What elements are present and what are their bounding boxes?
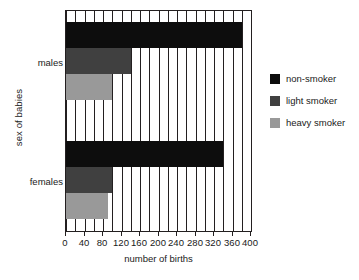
legend-item-light-smoker: light smoker	[270, 95, 359, 106]
legend-item-non-smoker: non-smoker	[270, 73, 359, 84]
x-tick	[195, 232, 196, 236]
legend-swatch-icon	[270, 118, 280, 128]
legend-swatch-icon	[270, 74, 280, 84]
bar-males-light-smoker	[66, 48, 131, 74]
bar-males-heavy-smoker	[66, 74, 112, 100]
legend: non-smokerlight smokerheavy smoker	[270, 73, 359, 139]
legend-label: non-smoker	[286, 73, 336, 84]
bar-females-heavy-smoker	[66, 193, 108, 219]
bar-chart-figure: sex of babies males females 040801201602…	[0, 0, 359, 280]
x-axis-tick-labels: 04080120160200240280320360400	[0, 237, 359, 251]
x-tick	[250, 232, 251, 236]
x-tick	[102, 232, 103, 236]
x-tick	[65, 232, 66, 236]
y-axis-label-females: females	[3, 176, 63, 187]
bar-females-light-smoker	[66, 167, 112, 193]
plot-area	[65, 10, 252, 232]
gridline	[242, 11, 243, 231]
x-tick	[213, 232, 214, 236]
x-tick	[121, 232, 122, 236]
x-tick	[176, 232, 177, 236]
x-tick	[232, 232, 233, 236]
legend-item-heavy-smoker: heavy smoker	[270, 117, 359, 128]
gridline	[251, 11, 252, 231]
legend-label: heavy smoker	[286, 117, 345, 128]
legend-label: light smoker	[286, 95, 337, 106]
x-tick-label: 400	[235, 237, 265, 248]
y-axis-label-males: males	[3, 57, 63, 68]
x-axis-title: number of births	[65, 253, 252, 264]
x-tick	[84, 232, 85, 236]
bar-females-non-smoker	[66, 141, 223, 167]
bar-males-non-smoker	[66, 22, 242, 48]
x-tick	[158, 232, 159, 236]
legend-swatch-icon	[270, 96, 280, 106]
x-tick	[139, 232, 140, 236]
